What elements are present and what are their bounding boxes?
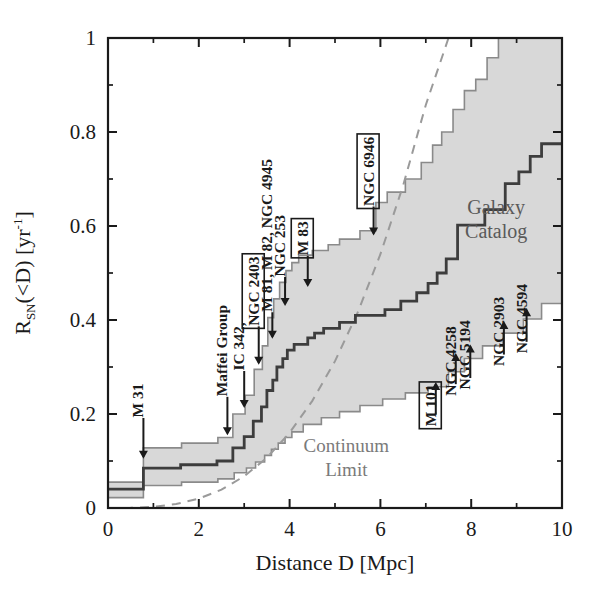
annotation-label: NGC 5194 — [456, 320, 473, 390]
figure-container: 024681000.20.40.60.81Distance D [Mpc]RSN… — [0, 0, 603, 598]
inline-label-line: Catalog — [465, 220, 527, 243]
inline-label-line: Limit — [325, 459, 368, 480]
annotation-maffei-group: Maffei Group — [213, 305, 232, 435]
x-tick-label: 2 — [194, 517, 205, 541]
y-tick-label: 0.2 — [70, 402, 96, 426]
annotation-label: M 31 — [129, 383, 146, 417]
inline-label-continuum: ContinuumLimit — [304, 435, 390, 480]
inline-label-line: Continuum — [304, 435, 390, 456]
annotation-label: Maffei Group — [213, 305, 230, 396]
x-tick-label: 10 — [552, 517, 573, 541]
annotation-ngc-2903: NGC 2903 — [490, 296, 509, 366]
annotation-label: NGC 4594 — [513, 284, 530, 354]
annotation-ngc-4594: NGC 4594 — [513, 284, 532, 354]
x-tick-label: 0 — [103, 517, 114, 541]
annotation-label: NGC 253 — [271, 215, 288, 277]
inline-label-galaxy: GalaxyCatalog — [465, 196, 527, 243]
y-tick-label: 0 — [86, 496, 97, 520]
x-tick-label: 4 — [284, 517, 295, 541]
annotation-label: M 83 — [294, 221, 311, 255]
annotation-label: M 101 — [422, 384, 439, 426]
y-axis-title: RSN(<D) [yr-1] — [10, 211, 38, 335]
uncertainty-band — [108, 38, 562, 498]
annotation-label: IC 342, — [230, 322, 247, 370]
y-tick-label: 0.4 — [70, 308, 97, 332]
annotation-label: NGC 6946 — [360, 136, 377, 206]
y-tick-label: 1 — [86, 26, 97, 50]
x-tick-label: 8 — [466, 517, 477, 541]
y-tick-label: 0.6 — [70, 214, 96, 238]
annotation-ngc-5194: NGC 5194 — [456, 320, 475, 390]
annotation-label: NGC 2903 — [490, 296, 507, 366]
x-tick-label: 6 — [375, 517, 386, 541]
annotation-m-101: M 101 — [419, 382, 441, 429]
inline-label-line: Galaxy — [467, 196, 525, 219]
x-axis-title: Distance D [Mpc] — [256, 550, 415, 575]
y-tick-label: 0.8 — [70, 120, 96, 144]
annotation-arrow-head — [223, 427, 232, 435]
supernova-rate-chart: 024681000.20.40.60.81Distance D [Mpc]RSN… — [0, 0, 603, 598]
